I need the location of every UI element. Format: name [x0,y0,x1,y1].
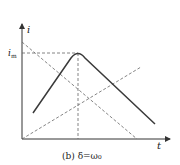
figure-caption: (b) δ=ω₀ [62,151,102,161]
response-curve [33,54,155,125]
x-axis-label: t [157,140,162,151]
y-axis-label: i [27,24,30,35]
peak-label: im [8,48,17,59]
resonance-curve-diagram: i t im (b) δ=ω₀ [0,0,180,165]
